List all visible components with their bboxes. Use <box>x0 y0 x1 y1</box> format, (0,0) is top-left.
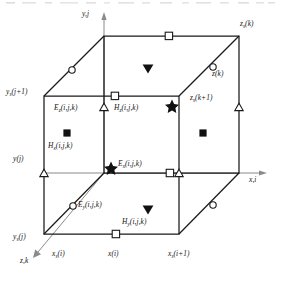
marker-filled-triangle-down-group <box>143 64 154 214</box>
scan-noise-band <box>6 2 275 4</box>
coord-label-x-i: x(i) <box>108 250 119 257</box>
axis-label-z: z,k <box>20 257 28 264</box>
marker-filled-square <box>199 129 206 136</box>
marker-open-circle <box>210 202 216 208</box>
field-label-Ez: Ez(i,j,k) <box>54 104 77 111</box>
field-label-Hz: Hz(i,j,k) <box>114 104 138 111</box>
coord-label-xs-i-plus-1: xs(i+1) <box>168 250 190 257</box>
axis-label-y: y,j <box>82 10 89 17</box>
coord-label-xs-i: xs(i) <box>52 250 65 257</box>
figure-canvas <box>0 0 281 286</box>
marker-open-triangle <box>235 103 243 110</box>
coord-label-zs-k: zs(k) <box>240 20 254 27</box>
marker-open-square-group <box>111 32 173 238</box>
axis-label-x: x,i <box>249 176 256 183</box>
marker-filled-square <box>63 129 70 136</box>
marker-filled-triangle-down <box>143 205 154 214</box>
marker-open-circle <box>69 67 75 73</box>
marker-filled-star <box>165 100 179 113</box>
marker-open-square <box>112 230 119 237</box>
marker-open-square <box>165 32 172 39</box>
cube-edge-tl <box>44 36 104 96</box>
field-label-Hy: Hy(i,j,k) <box>122 218 147 225</box>
cube-edge-tr <box>179 36 239 96</box>
marker-open-circle-group <box>69 64 216 209</box>
field-label-Ex: Ex(i,j,k) <box>118 160 142 167</box>
coord-label-ys-j-plus-1: ys(j+1) <box>6 88 28 95</box>
coord-label-z-k: z(k) <box>212 70 224 77</box>
marker-open-triangle <box>100 103 108 110</box>
x-axis-arrow <box>259 170 267 175</box>
coord-label-y-j: y(j) <box>13 155 24 162</box>
marker-filled-triangle-down <box>143 64 154 73</box>
axis-lines <box>38 17 262 252</box>
field-label-Hx: Hx(i,j,k) <box>48 142 73 149</box>
yee-cell-figure: y,j x,i z,k ys(j+1) y(j) ys(j) xs(i) x(i… <box>0 0 281 286</box>
marker-open-circle <box>70 203 76 209</box>
y-axis-arrow <box>101 12 106 20</box>
marker-open-square <box>166 169 173 176</box>
marker-filled-square-group <box>63 129 206 136</box>
coord-label-zs-k-plus-1: zs(k+1) <box>190 94 213 101</box>
coord-label-ys-j: ys(j) <box>13 233 26 240</box>
z-axis-arrow <box>33 250 41 258</box>
field-label-Ey: Ey(i,j,k) <box>78 201 102 208</box>
cube-edge-br <box>179 173 239 234</box>
marker-open-square <box>111 92 118 99</box>
